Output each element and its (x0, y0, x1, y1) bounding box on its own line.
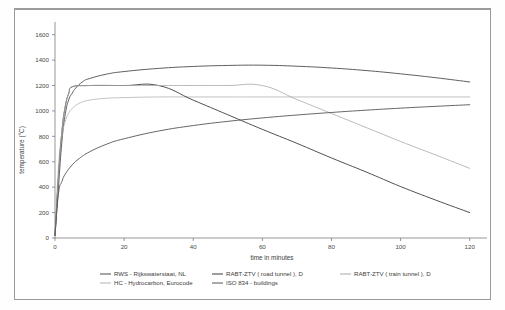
x-tick-label: 80 (328, 243, 335, 250)
curve-iso-834-buildings (55, 105, 470, 236)
curve-rabt-ztv-train-tunnel-d (55, 84, 470, 235)
legend-rws-label: RWS - Rijkswaterstaat, NL (114, 270, 187, 277)
legend-hc-label: HC - Hydrocarbon, Eurocode (114, 279, 193, 286)
curve-group (55, 65, 470, 235)
y-tick-label: 1600 (35, 31, 49, 38)
x-tick-label: 60 (259, 243, 266, 250)
legend-rabt-road-label: RABT-ZTV ( road tunnel ), D (226, 270, 303, 277)
y-tick-label: 1400 (35, 56, 49, 63)
y-axis-ticks: 02004006008001000120014001600 (35, 31, 55, 241)
y-tick-label: 600 (39, 158, 50, 165)
y-tick-label: 800 (39, 133, 50, 140)
y-tick-label: 200 (39, 209, 50, 216)
x-tick-label: 120 (465, 243, 476, 250)
x-tick-label: 40 (190, 243, 197, 250)
legend: RWS - Rijkswaterstaat, NLHC - Hydrocarbo… (100, 270, 431, 286)
y-tick-label: 1000 (35, 107, 49, 114)
legend-iso834-label: ISO 834 - buildings (226, 279, 278, 286)
y-tick-label: 1200 (35, 82, 49, 89)
temperature-time-curves-chart: 02004006008001000120014001600 0204060801… (0, 0, 505, 310)
axis-group (55, 22, 487, 238)
curve-rws-rijkswaterstaat-nl (55, 65, 470, 235)
x-tick-label: 0 (53, 243, 57, 250)
x-tick-label: 100 (395, 243, 406, 250)
x-tick-label: 20 (121, 243, 128, 250)
y-tick-label: 400 (39, 183, 50, 190)
y-axis-title: temperature (°C) (18, 126, 26, 174)
curve-rabt-ztv-road-tunnel-d (55, 84, 470, 235)
x-axis-title: time in minutes (251, 254, 294, 261)
chart-page: 02004006008001000120014001600 0204060801… (0, 0, 505, 310)
x-axis-ticks: 020406080100120 (53, 238, 475, 250)
legend-rabt-train-label: RABT-ZTV ( train tunnel ), D (354, 270, 431, 277)
y-tick-label: 0 (46, 234, 50, 241)
